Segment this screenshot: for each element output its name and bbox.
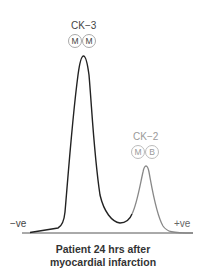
ck3-subunit-m2: M <box>82 34 96 48</box>
ck2-subunit-b: B <box>145 145 159 159</box>
ck3-peak-curve <box>30 56 132 233</box>
caption-line-1: Patient 24 hrs after <box>0 243 206 256</box>
negative-pole-label: −ve <box>10 218 26 229</box>
positive-pole-label: +ve <box>174 218 190 229</box>
ck2-label: CK−2 <box>133 131 158 142</box>
ck3-subunit-m1: M <box>68 34 82 48</box>
electrophoresis-trace <box>0 0 206 274</box>
ck2-subunit-m: M <box>131 145 145 159</box>
ck3-label: CK−3 <box>71 20 96 31</box>
caption-line-2: myocardial infarction <box>0 256 206 269</box>
